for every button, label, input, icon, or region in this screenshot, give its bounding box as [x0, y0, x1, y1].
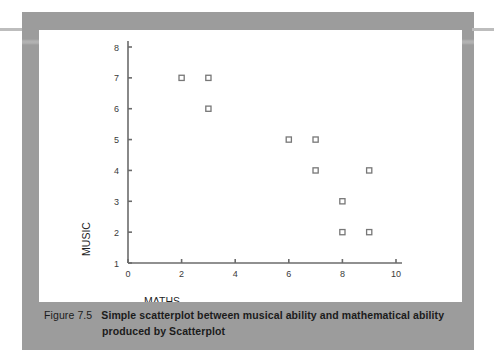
y-tick-label: 5	[114, 135, 119, 145]
data-point	[340, 199, 345, 204]
data-point	[206, 106, 211, 111]
scatterplot: 123456780246810MATHSMUSIC	[39, 30, 462, 302]
data-point-marker	[367, 168, 372, 173]
y-tick-label: 2	[114, 228, 119, 238]
data-point	[179, 75, 184, 80]
caption-subtitle: produced by Scatterplot	[102, 323, 464, 339]
data-point-marker	[206, 106, 211, 111]
data-point	[286, 137, 291, 142]
x-tick-label: 10	[391, 269, 401, 279]
y-axis-title: MUSIC	[80, 222, 92, 256]
data-point	[367, 230, 372, 235]
data-point-marker	[340, 199, 345, 204]
data-point-marker	[206, 75, 211, 80]
data-point	[206, 75, 211, 80]
page-seam-right	[472, 28, 494, 31]
y-tick-label: 6	[114, 104, 119, 114]
figure-caption: Figure 7.5Simple scatterplot between mus…	[44, 307, 464, 339]
y-tick-label: 1	[114, 259, 119, 269]
caption-figure-number: Figure 7.5	[44, 309, 92, 321]
figure-canvas: 123456780246810MATHSMUSIC	[39, 30, 462, 302]
x-tick-label: 4	[233, 269, 238, 279]
x-tick-label: 6	[286, 269, 291, 279]
page-seam-left	[0, 28, 22, 31]
data-point-marker	[313, 137, 318, 142]
y-tick-label: 4	[114, 166, 119, 176]
scatterplot-svg: 123456780246810MATHSMUSIC	[39, 30, 462, 302]
x-tick-label: 8	[340, 269, 345, 279]
data-point	[313, 168, 318, 173]
data-point	[367, 168, 372, 173]
figure-page: 123456780246810MATHSMUSIC Figure 7.5Simp…	[0, 0, 494, 356]
data-point-marker	[179, 75, 184, 80]
x-tick-label: 2	[179, 269, 184, 279]
data-point-marker	[340, 230, 345, 235]
x-tick-label: 0	[125, 269, 130, 279]
y-tick-label: 8	[114, 43, 119, 53]
data-point	[313, 137, 318, 142]
x-axis-title: MATHS	[144, 295, 180, 302]
data-point	[340, 230, 345, 235]
data-point-marker	[286, 137, 291, 142]
data-point-marker	[367, 230, 372, 235]
data-point-marker	[313, 168, 318, 173]
caption-title: Simple scatterplot between musical abili…	[101, 309, 444, 321]
y-tick-label: 3	[114, 197, 119, 207]
y-tick-label: 7	[114, 73, 119, 83]
